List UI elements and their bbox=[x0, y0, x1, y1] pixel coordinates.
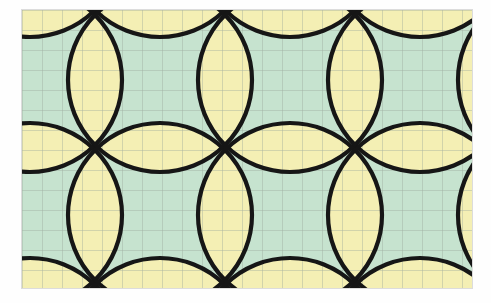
tessellation-svg bbox=[22, 10, 472, 288]
pattern-panel bbox=[22, 10, 472, 288]
figure-root bbox=[0, 0, 491, 303]
tessellation-content bbox=[22, 10, 472, 288]
